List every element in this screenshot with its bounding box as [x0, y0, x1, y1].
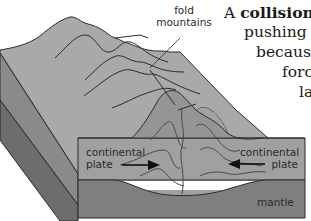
fold-mountains-label-line1: fold	[154, 4, 214, 16]
caption-bold-term: collision b	[240, 3, 311, 22]
caption-line-5: la	[299, 83, 311, 102]
caption-prefix: A	[224, 4, 240, 22]
left-plate-label-line1: continental	[86, 146, 145, 158]
caption-line-3: because	[256, 43, 311, 62]
caption-line-2: pushing tog	[244, 23, 311, 42]
right-plate-label-line1: continental	[240, 146, 298, 158]
left-plate-label-line2: plate	[86, 158, 145, 170]
right-plate-label-line2: plate	[240, 158, 298, 170]
caption-line-4: force	[282, 63, 311, 82]
left-continental-plate-label: continental plate	[86, 146, 145, 170]
caption-line-1: A collision b	[224, 3, 311, 23]
fold-mountains-label: fold mountains	[154, 4, 214, 28]
fold-mountains-label-line2: mountains	[154, 16, 214, 28]
mantle-label: mantle	[257, 196, 294, 208]
right-continental-plate-label: continental plate	[240, 146, 298, 170]
